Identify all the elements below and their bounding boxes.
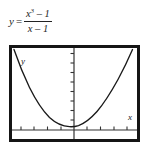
curve-parabola [14, 50, 133, 127]
plot-inner: y x [12, 48, 137, 139]
fraction-bar [24, 21, 52, 22]
fraction: x3 – 1 x – 1 [24, 8, 52, 35]
fraction-numerator: x3 – 1 [24, 8, 52, 20]
y-axis-label: y [21, 57, 25, 66]
plot-frame: y x [9, 45, 140, 142]
x-axis-label: x [128, 113, 132, 122]
fraction-denominator: x – 1 [26, 23, 50, 35]
figure-container: y = x3 – 1 x – 1 [0, 0, 150, 151]
numerator-rest: – 1 [34, 8, 50, 19]
plot-canvas [12, 48, 137, 139]
equals-sign: = [15, 16, 24, 27]
equation: y = x3 – 1 x – 1 [9, 8, 52, 35]
